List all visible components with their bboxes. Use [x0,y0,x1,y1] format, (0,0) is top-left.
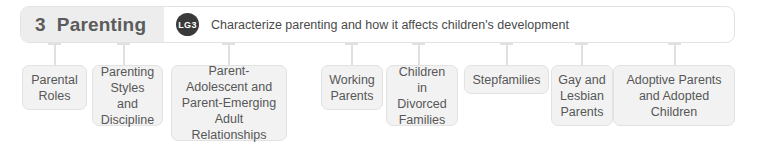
topic-box-stepfamilies[interactable]: Stepfamilies [464,65,549,94]
topic-box-parent-adolescent-relationships[interactable]: Parent-Adolescent and Parent-Emerging Ad… [171,65,287,141]
topic-box-label: Parental Roles [29,72,80,104]
topic-box-label: Parent-Adolescent and Parent-Emerging Ad… [178,63,280,143]
chapter-outline-diagram: 3 Parenting LG3 Characterize parenting a… [0,0,763,144]
topic-box-label: Adoptive Parents and Adopted Children [620,72,728,120]
topic-box-parenting-styles-and-discipline[interactable]: Parenting Styles and Discipline [92,65,163,126]
topic-box-label: Gay and Lesbian Parents [558,72,606,120]
topic-box-label: Stepfamilies [471,72,542,88]
topic-box-parental-roles[interactable]: Parental Roles [22,65,87,110]
topic-box-children-in-divorced-families[interactable]: Children in Divorced Families [386,65,458,126]
topic-box-label: Parenting Styles and Discipline [99,64,156,128]
topic-box-label: Working Parents [328,72,376,104]
topic-boxes-layer: Parental Roles Parenting Styles and Disc… [0,0,763,144]
topic-box-adoptive-parents-and-adopted-children[interactable]: Adoptive Parents and Adopted Children [613,65,735,126]
topic-box-label: Children in Divorced Families [393,64,451,128]
topic-box-gay-and-lesbian-parents[interactable]: Gay and Lesbian Parents [551,65,613,126]
topic-box-working-parents[interactable]: Working Parents [321,65,383,110]
